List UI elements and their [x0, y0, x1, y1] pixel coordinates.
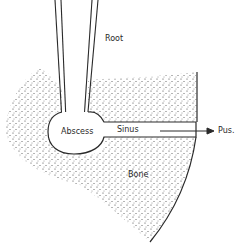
label-sinus: Sinus	[117, 125, 139, 134]
label-bone: Bone	[128, 170, 148, 179]
bone-region	[0, 60, 200, 247]
label-pus: Pus.	[218, 126, 234, 135]
label-abscess: Abscess	[61, 127, 93, 136]
label-root: Root	[105, 34, 123, 43]
